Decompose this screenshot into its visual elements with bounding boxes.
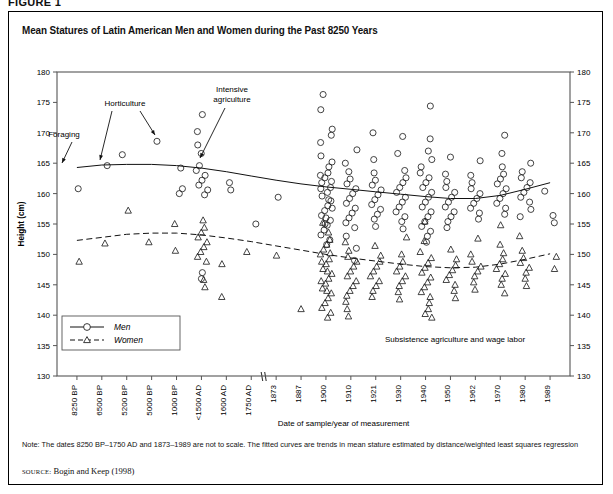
svg-text:155: 155 <box>37 220 51 229</box>
svg-text:140: 140 <box>37 311 51 320</box>
annotation-horticulture: Horticulture <box>105 99 146 108</box>
note-text: The dates 8250 BP–1750 AD and 1873–1989 … <box>42 440 578 449</box>
y-axis-left: 130135140145150155160165170175180 <box>37 68 57 381</box>
svg-text:175: 175 <box>37 98 51 107</box>
svg-text:160: 160 <box>577 190 591 199</box>
legend-label-women: Women <box>114 335 143 345</box>
svg-text:165: 165 <box>37 159 51 168</box>
women-scatter-points <box>76 207 560 320</box>
source-text: Bogin and Keep (1998) <box>53 466 134 476</box>
svg-text:150: 150 <box>577 250 591 259</box>
svg-text:1950: 1950 <box>443 384 452 402</box>
x-axis-title: Date of sample/year of measurement <box>278 419 410 428</box>
svg-text:145: 145 <box>37 281 51 290</box>
svg-text:1910: 1910 <box>344 384 353 402</box>
annotation-intensive-agriculture: Intensiveagriculture <box>213 85 251 104</box>
svg-text:165: 165 <box>577 159 591 168</box>
svg-text:145: 145 <box>577 281 591 290</box>
y-axis-right: 130135140145150155160165170175180 <box>570 68 591 381</box>
svg-text:135: 135 <box>577 342 591 351</box>
svg-text:1000 BP: 1000 BP <box>170 385 179 416</box>
svg-text:180: 180 <box>37 68 51 77</box>
note-label: Note: <box>22 440 40 449</box>
chart-legend: MenWomen <box>62 316 180 350</box>
svg-text:170: 170 <box>577 129 591 138</box>
plot-area: 8250 BP6500 BP5200 BP5000 BP1000 BP<1500… <box>0 0 613 494</box>
figure-note: Note: The dates 8250 BP–1750 AD and 1873… <box>22 440 590 449</box>
svg-text:130: 130 <box>577 372 591 381</box>
svg-text:1962: 1962 <box>468 384 477 402</box>
svg-text:<1500 AD: <1500 AD <box>194 385 203 421</box>
annotation-layer: ForagingHorticultureIntensiveagriculture… <box>0 0 525 344</box>
svg-text:140: 140 <box>577 311 591 320</box>
svg-text:5200 BP: 5200 BP <box>120 385 129 416</box>
x-axis-ticks: 8250 BP6500 BP5200 BP5000 BP1000 BP<1500… <box>70 372 552 420</box>
svg-text:1873: 1873 <box>269 384 278 402</box>
annotation-subsistence: Subsistence agriculture and wage labor <box>385 335 525 344</box>
svg-text:8250 BP: 8250 BP <box>70 385 79 416</box>
figure-root: FIGURE 1 Mean Statures of Latin American… <box>0 0 613 494</box>
svg-text:1970: 1970 <box>493 384 502 402</box>
source-label: SOURCE: <box>22 468 51 475</box>
svg-text:1921: 1921 <box>369 384 378 402</box>
svg-text:180: 180 <box>577 68 591 77</box>
svg-text:1600 AD: 1600 AD <box>219 385 228 416</box>
svg-text:175: 175 <box>577 98 591 107</box>
svg-text:160: 160 <box>37 190 51 199</box>
legend-label-men: Men <box>114 322 131 332</box>
svg-text:135: 135 <box>37 342 51 351</box>
svg-text:1930: 1930 <box>394 384 403 402</box>
svg-text:1887: 1887 <box>294 384 303 402</box>
svg-text:1900: 1900 <box>319 384 328 402</box>
svg-text:5000 BP: 5000 BP <box>145 385 154 416</box>
svg-text:1750 AD: 1750 AD <box>244 385 253 416</box>
svg-text:1940: 1940 <box>419 384 428 402</box>
svg-text:1980: 1980 <box>518 384 527 402</box>
svg-text:130: 130 <box>37 372 51 381</box>
y-axis-title: Height (cm) <box>17 201 26 246</box>
annotation-foraging: Foraging <box>48 130 80 139</box>
svg-text:1989: 1989 <box>543 384 552 402</box>
svg-text:6500 BP: 6500 BP <box>95 385 104 416</box>
svg-text:150: 150 <box>37 250 51 259</box>
chart-svg: 8250 BP6500 BP5200 BP5000 BP1000 BP<1500… <box>0 0 613 494</box>
figure-source: SOURCE: Bogin and Keep (1998) <box>22 466 134 476</box>
svg-text:155: 155 <box>577 220 591 229</box>
